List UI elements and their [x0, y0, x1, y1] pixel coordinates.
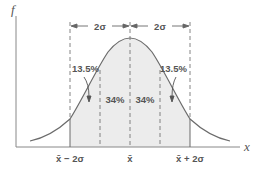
outer-right-percent: 13.5% — [160, 63, 187, 74]
right-dimension-label: 2σ — [154, 21, 166, 32]
tick-label-mean: x̄ — [127, 153, 133, 164]
outer-left-percent: 13.5% — [72, 63, 99, 74]
y-axis-label: f — [11, 2, 17, 17]
inner-left-percent: 34% — [105, 94, 125, 105]
x-axis-label: x — [243, 139, 250, 154]
tick-label-minus-2sigma: x̄ − 2σ — [56, 153, 84, 164]
tick-label-plus-2sigma: x̄ + 2σ — [176, 153, 204, 164]
left-dimension-label: 2σ — [94, 21, 106, 32]
inner-right-percent: 34% — [135, 94, 155, 105]
normal-distribution-diagram: 2σ 2σ 13.5% 34% 34% 13.5% f x x̄ − 2σ x̄… — [0, 0, 266, 173]
